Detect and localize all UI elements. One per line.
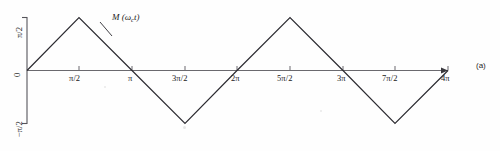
y-axis-label-bottom: −π/2 [14,121,24,137]
y-axis-label-zero: 0 [12,73,22,77]
x-tick-label-3pi: 3π [337,73,346,83]
panel-label: (a) [476,61,486,70]
x-tick-label-3pi-over-2: 3π/2 [172,73,188,83]
curve-label-leader [100,22,112,36]
x-tick-label-2pi: 2π [231,73,240,83]
figure-panel: π/2 0 −π/2 π/2 π 3π/2 2π 5π/2 3π 7π/2 4π… [0,0,500,151]
x-tick-label-5pi-over-2: 5π/2 [277,73,293,83]
x-tick-label-7pi-over-2: 7π/2 [382,73,398,83]
curve-label-main: M (ω [112,12,131,22]
x-tick-label-4pi: 4π [441,73,450,83]
x-tick-label-pi: π [128,73,132,83]
x-axis-ticks [79,66,448,71]
curve-label-tail: t) [134,12,140,22]
curve-annotation-label: M (ωct) [112,12,140,23]
x-tick-label-pi-over-2: π/2 [69,73,80,83]
y-axis-label-top: π/2 [14,27,24,38]
